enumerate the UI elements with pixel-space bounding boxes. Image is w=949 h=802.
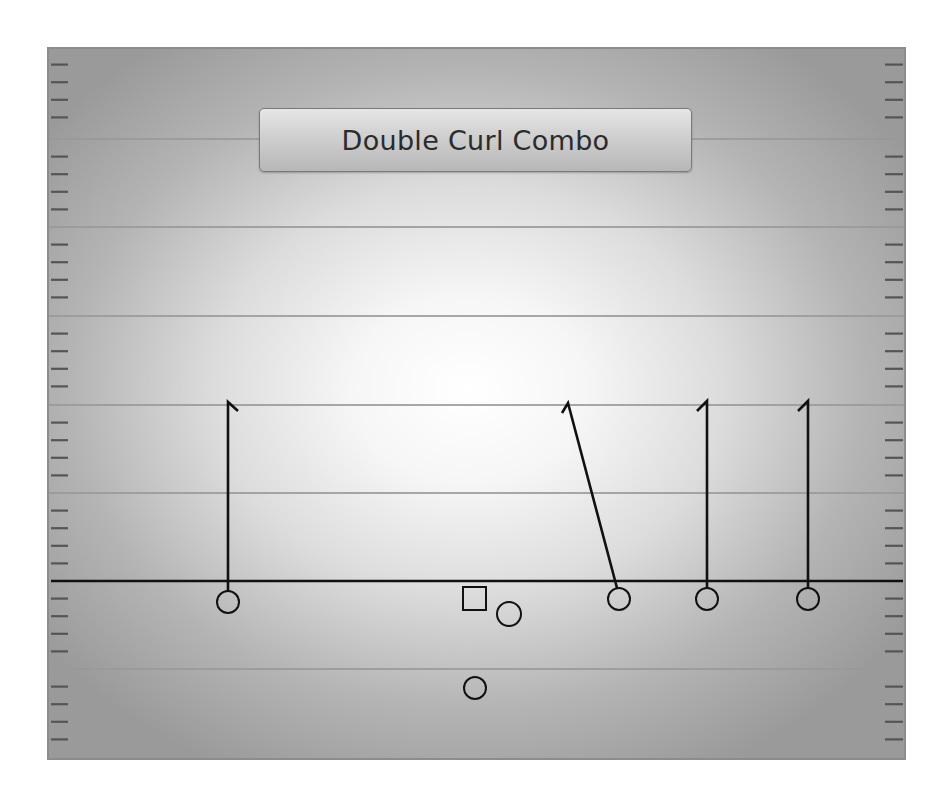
player-guard	[497, 602, 521, 626]
players	[217, 587, 819, 699]
route-te-right-slant-curl	[562, 403, 617, 588]
player-wr-left	[217, 591, 239, 613]
player-center	[463, 587, 486, 610]
route-wr-right-curl	[798, 401, 808, 588]
route-slot-right-curl	[697, 401, 707, 588]
player-quarterback	[464, 677, 486, 699]
player-slot-right	[696, 588, 718, 610]
routes	[228, 401, 808, 591]
play-title-box: Double Curl Combo	[259, 108, 692, 172]
route-wr-left-curl	[228, 402, 238, 591]
yard-lines	[49, 139, 904, 669]
play-title: Double Curl Combo	[342, 125, 610, 156]
player-te-right	[608, 588, 630, 610]
play-diagram: Double Curl Combo	[0, 0, 949, 802]
player-wr-right	[797, 588, 819, 610]
